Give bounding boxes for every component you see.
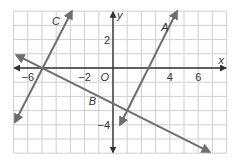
x-axis-label: x: [218, 54, 225, 66]
coordinate-plane: ABC−6−2462−4Oxy: [0, 0, 234, 165]
origin-label: O: [100, 71, 109, 83]
x-tick-label: 4: [167, 71, 173, 83]
line-label-b: B: [89, 95, 96, 107]
x-tick-label: 6: [195, 71, 201, 83]
y-tick-label: 2: [104, 34, 110, 46]
y-tick-label: −4: [97, 119, 110, 131]
line-label-a: A: [160, 21, 168, 33]
plotted-lines: [15, 11, 210, 152]
line-c: [15, 11, 72, 122]
line-label-c: C: [52, 15, 60, 27]
x-tick-label: −6: [22, 71, 35, 83]
x-tick-label: −2: [78, 71, 91, 83]
tick-labels: ABC−6−2462−4Oxy: [22, 9, 225, 131]
